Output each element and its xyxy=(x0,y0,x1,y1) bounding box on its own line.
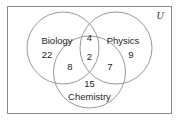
physics-set-label: Physics xyxy=(107,35,140,46)
physics-only-count: 9 xyxy=(128,49,133,60)
physics-chemistry-count: 7 xyxy=(107,61,112,72)
biology-chemistry-count: 8 xyxy=(67,61,72,72)
venn-diagram-figure: U Biology 22 Physics 9 15 Chemistry 4 2 … xyxy=(0,0,180,121)
chemistry-set-label: Chemistry xyxy=(68,91,111,102)
biology-physics-count: 4 xyxy=(87,32,92,43)
biology-only-count: 22 xyxy=(42,49,53,60)
venn-diagram-canvas: U Biology 22 Physics 9 15 Chemistry 4 2 … xyxy=(0,0,180,121)
universal-set-label: U xyxy=(156,10,164,21)
biology-set-label: Biology xyxy=(41,35,72,46)
chemistry-only-count: 15 xyxy=(84,78,95,89)
all-three-count: 2 xyxy=(87,51,92,62)
